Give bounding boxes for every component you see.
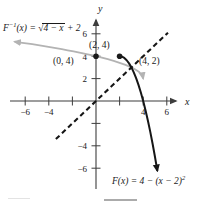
inverse-function-graph-figure: xy−6−446642−4−6 F−1(x) = √4 − x + 2 F(x)…: [0, 0, 202, 205]
point-label-2-4: (2, 4): [89, 40, 110, 50]
curves-layer: [15, 33, 168, 171]
function-exponent: 2: [182, 174, 185, 181]
radicand: 4 − x: [42, 23, 64, 34]
x-tick-label--6: −6: [20, 107, 30, 117]
points-layer: [93, 53, 122, 59]
function-body: 4 − (x − 2): [140, 176, 182, 186]
y-tick-label-6: 6: [83, 29, 88, 39]
y-tick-label--4: −4: [77, 141, 87, 151]
inverse-function-label: F−1(x) = √4 − x + 2: [3, 23, 80, 34]
point-dot-2-4: [117, 53, 123, 59]
y-axis-letter: y: [97, 3, 103, 14]
point-label-4-2: (4, 2): [139, 56, 160, 66]
equals-sign: =: [27, 23, 38, 33]
x-tick-label-6: 6: [165, 107, 170, 117]
point-dot-0-4: [93, 53, 99, 59]
equals-sign: =: [128, 176, 139, 186]
x-tick-label--4: −4: [44, 107, 54, 117]
y-tick-label-2: 2: [83, 74, 88, 84]
y-tick-label--6: −6: [77, 164, 87, 174]
curve-inverse: [15, 42, 144, 79]
x-axis-letter: x: [184, 96, 190, 107]
inverse-tail: + 2: [65, 23, 81, 33]
function-label: F(x) = 4 − (x − 2)2: [112, 176, 185, 186]
curve-identity: [56, 33, 168, 139]
point-label-0-4: (0, 4): [53, 56, 74, 66]
function-lhs: F(x): [112, 176, 128, 186]
inverse-args: (x): [16, 23, 27, 33]
